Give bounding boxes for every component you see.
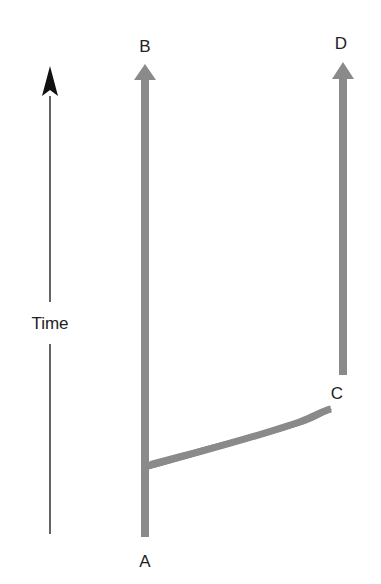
node-label-b: B bbox=[139, 37, 150, 56]
time-axis-arrowhead-icon bbox=[42, 66, 58, 96]
node-label-a: A bbox=[139, 552, 151, 571]
node-label-d: D bbox=[335, 34, 347, 53]
lineage-a-b-shaft bbox=[141, 78, 149, 537]
lineage-c-to-d bbox=[332, 62, 354, 375]
lineage-diagram: Time B D C A bbox=[0, 0, 381, 584]
branch-a-to-c-stroke bbox=[148, 409, 331, 466]
time-axis-label: Time bbox=[31, 314, 68, 333]
lineage-b-arrowhead-icon bbox=[134, 64, 156, 80]
time-axis: Time bbox=[31, 66, 68, 534]
lineage-d-arrowhead-icon bbox=[332, 62, 354, 79]
lineage-c-d-shaft bbox=[339, 78, 347, 375]
node-label-c: C bbox=[331, 384, 343, 403]
